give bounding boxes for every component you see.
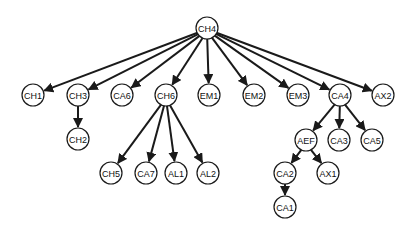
- node-label: CH5: [102, 169, 120, 179]
- node-label: AL2: [200, 169, 216, 179]
- node-em1: EM1: [198, 84, 220, 106]
- node-ca1: CA1: [274, 196, 296, 218]
- node-aef: AEF: [295, 129, 317, 151]
- edge-aef-to-ax1: [310, 148, 322, 163]
- node-label: CA5: [363, 136, 381, 146]
- node-ca4: CA4: [329, 84, 351, 106]
- edge-aef-to-ca2: [291, 148, 302, 163]
- node-label: CA7: [137, 169, 155, 179]
- node-label: CH2: [69, 135, 87, 145]
- node-ch2: CH2: [67, 128, 89, 150]
- node-ca2: CA2: [274, 162, 296, 184]
- node-label: EM2: [245, 91, 264, 101]
- node-ch3: CH3: [67, 84, 89, 106]
- edge-ch6-to-ch5: [118, 103, 162, 163]
- node-al2: AL2: [197, 162, 219, 184]
- node-label: CA2: [276, 169, 294, 179]
- node-label: CA1: [276, 203, 294, 213]
- node-label: EM3: [289, 91, 308, 101]
- node-ch5: CH5: [100, 162, 122, 184]
- node-label: AX2: [374, 91, 391, 101]
- edge-ch6-to-ca7: [149, 105, 164, 162]
- node-em3: EM3: [287, 84, 309, 106]
- edge-ch4-to-ch3: [89, 33, 201, 90]
- edge-ca4-to-aef: [313, 103, 336, 131]
- node-label: AL1: [168, 169, 184, 179]
- edge-ch4-to-em2: [211, 36, 247, 85]
- node-ax2: AX2: [372, 84, 394, 106]
- node-em2: EM2: [243, 84, 265, 106]
- node-ca7: CA7: [135, 162, 157, 184]
- node-label: EM1: [200, 91, 219, 101]
- node-ca5: CA5: [361, 129, 383, 151]
- node-label: CH1: [24, 91, 42, 101]
- node-ax1: AX1: [317, 162, 339, 184]
- node-ch6: CH6: [155, 84, 177, 106]
- edge-ch4-to-em3: [212, 34, 288, 88]
- node-label: CA6: [113, 91, 131, 101]
- node-label: CH6: [157, 91, 175, 101]
- node-ca3: CA3: [328, 129, 350, 151]
- node-label: CH4: [198, 24, 216, 34]
- edge-ca4-to-ca5: [344, 103, 365, 130]
- node-label: CA4: [331, 91, 349, 101]
- edge-ch4-to-em1: [207, 38, 208, 83]
- node-al1: AL1: [165, 162, 187, 184]
- edge-ch4-to-ch1: [44, 32, 201, 91]
- node-ch4: CH4: [196, 17, 218, 39]
- node-label: CH3: [69, 91, 87, 101]
- tree-diagram: CH4CH1CH3CA6CH6EM1EM2EM3CA4AX2CH2CH5CA7A…: [0, 0, 413, 234]
- edge-ch6-to-al1: [167, 105, 175, 161]
- node-ca6: CA6: [111, 84, 133, 106]
- edge-ca4-to-ca3: [339, 105, 340, 128]
- node-ch1: CH1: [22, 84, 44, 106]
- node-label: AEF: [297, 136, 315, 146]
- node-label: AX1: [319, 169, 336, 179]
- edge-ch4-to-ax2: [213, 32, 372, 91]
- edge-ch4-to-ca6: [131, 34, 201, 87]
- node-label: CA3: [330, 136, 348, 146]
